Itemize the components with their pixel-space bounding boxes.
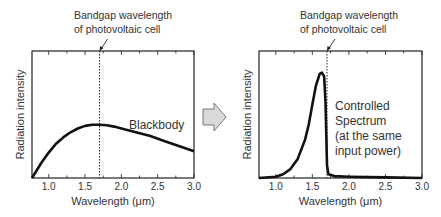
annotation-line-1: Bandgap wavelength — [74, 9, 172, 21]
x-tick-label: 1.0 — [42, 181, 56, 192]
y-axis-label: Radiation intensity — [14, 69, 26, 159]
series-label: Controlled — [335, 99, 390, 113]
series-label: input power) — [335, 144, 401, 158]
x-axis-label: Wavelength (μm) — [71, 195, 155, 207]
annotation-line-1: Bandgap wavelength — [300, 9, 398, 21]
x-tick-label: 2.0 — [114, 181, 128, 192]
annotation-line-2: of photovoltaic cell — [300, 23, 386, 35]
x-tick-label: 2.5 — [151, 181, 165, 192]
figure: 1.01.52.02.53.0Wavelength (μm)Radiation … — [0, 0, 441, 217]
x-axis-label: Wavelength (μm) — [299, 195, 383, 207]
plot-frame — [32, 51, 194, 178]
y-axis-label: Radiation intensity — [241, 69, 253, 159]
series-label: Blackbody — [129, 118, 184, 132]
annotation-line-2: of photovoltaic cell — [74, 23, 160, 35]
x-tick-label: 1.5 — [305, 181, 319, 192]
x-tick-label: 3.0 — [415, 181, 429, 192]
series-label: Spectrum — [335, 114, 386, 128]
x-tick-label: 2.0 — [342, 181, 356, 192]
controlled-spectrum-chart: 1.01.52.02.53.0Wavelength (μm)Radiation … — [241, 9, 429, 207]
right-arrow-icon — [203, 103, 226, 131]
x-tick-label: 3.0 — [187, 181, 201, 192]
blackbody-chart: 1.01.52.02.53.0Wavelength (μm)Radiation … — [14, 9, 201, 207]
x-tick-label: 1.5 — [78, 181, 92, 192]
x-tick-label: 1.0 — [269, 181, 283, 192]
series-label: (at the same — [335, 129, 402, 143]
series-line — [32, 125, 194, 178]
x-tick-label: 2.5 — [378, 181, 392, 192]
